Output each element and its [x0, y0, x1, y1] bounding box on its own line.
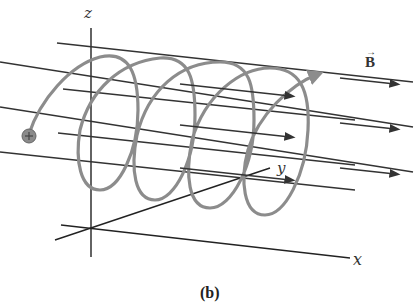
x-axis	[61, 225, 350, 258]
x-axis-label: x	[353, 250, 362, 269]
charged-particle	[22, 129, 36, 143]
z-axis-label: z	[84, 4, 92, 22]
figure-caption: (b)	[200, 284, 220, 302]
y-axis	[55, 168, 270, 240]
vector-arrow-icon: →	[366, 46, 376, 57]
helix-diagram: z y x → B (b)	[0, 0, 419, 307]
y-axis-label: y	[277, 159, 285, 177]
magnetic-field-label: → B	[365, 54, 375, 71]
field-lines-back	[0, 43, 413, 190]
